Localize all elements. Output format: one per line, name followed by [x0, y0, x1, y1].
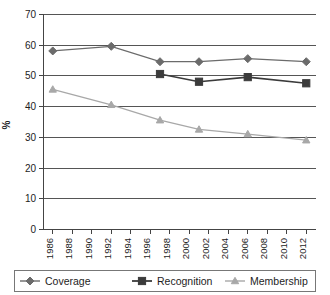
legend-label: Membership — [250, 275, 308, 287]
line-chart: 70 60 50 40 30 20 10 0 % — [0, 0, 330, 295]
x-tick-label: 2010 — [278, 238, 289, 259]
x-tick-label: 2006 — [239, 238, 250, 259]
legend-label: Coverage — [45, 275, 91, 287]
data-point-square — [244, 74, 251, 81]
y-tick-label: 70 — [25, 9, 37, 20]
y-tick-label: 60 — [25, 40, 37, 51]
y-tick-label: 30 — [25, 132, 37, 143]
y-axis-title: % — [1, 120, 12, 129]
x-tick-label: 2000 — [180, 238, 191, 259]
y-tick-label: 10 — [25, 193, 37, 204]
y-tick-label: 50 — [25, 70, 37, 81]
x-tick-label: 1986 — [44, 238, 55, 259]
data-point-square — [195, 78, 202, 85]
x-tick-label: 1998 — [161, 238, 172, 259]
x-tick-label: 1996 — [141, 238, 152, 259]
y-tick-label: 40 — [25, 101, 37, 112]
x-tick-label: 2004 — [219, 238, 230, 259]
x-tick-label: 1994 — [122, 238, 133, 259]
x-tick-label: 1992 — [102, 238, 113, 259]
y-tick-label: 0 — [30, 224, 36, 235]
data-point-square — [156, 70, 163, 77]
x-tick-label: 2002 — [200, 238, 211, 259]
x-tick-label: 2008 — [258, 238, 269, 259]
x-tick-label: 1988 — [63, 238, 74, 259]
x-tick-label: 2012 — [297, 238, 308, 259]
y-tick-label: 20 — [25, 163, 37, 174]
chart-canvas: 70 60 50 40 30 20 10 0 % — [0, 0, 330, 295]
legend-square-marker-icon — [138, 277, 145, 284]
x-tick-label: 1990 — [83, 238, 94, 259]
legend-label: Recognition — [157, 275, 213, 287]
data-point-square — [303, 80, 310, 87]
legend: CoverageRecognitionMembership — [20, 275, 308, 287]
